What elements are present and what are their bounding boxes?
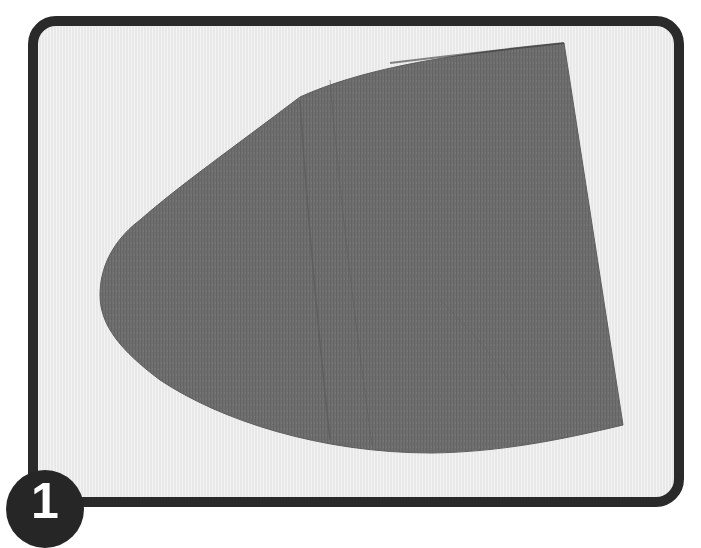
step-number-badge: 1: [6, 470, 84, 548]
fabric-piece: [100, 43, 623, 453]
step-number: 1: [6, 476, 84, 526]
